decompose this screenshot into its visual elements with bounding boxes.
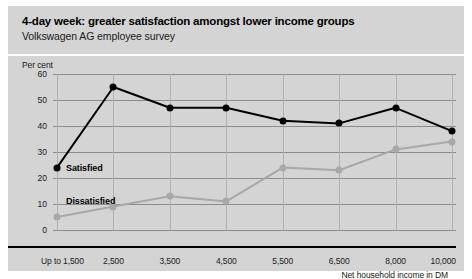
data-point-marker xyxy=(336,167,343,174)
plot-area: Per cent 6050403020100 Up to 1,5002,5003… xyxy=(8,56,464,271)
data-point-marker xyxy=(336,120,343,127)
y-tick-label: 20 xyxy=(38,173,47,183)
x-tick-label: 3,500 xyxy=(159,256,180,266)
data-point-marker xyxy=(449,138,456,145)
data-point-marker xyxy=(110,84,117,91)
y-tick-label: 40 xyxy=(38,121,47,131)
x-tick-label: 6,500 xyxy=(329,256,350,266)
title-block: 4-day week: greater satisfaction amongst… xyxy=(8,6,464,54)
x-tick-label: Up to 1,500 xyxy=(41,256,84,266)
data-point-marker xyxy=(279,164,286,171)
x-tick-label: 8,000 xyxy=(385,256,406,266)
data-point-marker xyxy=(392,146,399,153)
y-tick-label: 60 xyxy=(38,69,47,79)
y-tick-label: 10 xyxy=(38,199,47,209)
data-point-marker xyxy=(449,128,456,135)
data-point-marker xyxy=(166,104,173,111)
data-point-marker xyxy=(392,104,399,111)
data-point-marker xyxy=(166,193,173,200)
data-point-marker xyxy=(223,104,230,111)
chart-figure: 4-day week: greater satisfaction amongst… xyxy=(8,6,464,271)
x-tick-label: 10,000 xyxy=(431,256,456,266)
data-point-marker xyxy=(279,117,286,124)
x-tick-label: 2,500 xyxy=(103,256,124,266)
plot-canvas: 6050403020100 Up to 1,5002,5003,5004,500… xyxy=(53,74,456,230)
data-point-marker xyxy=(54,214,61,221)
page-subtitle: Volkswagen AG employee survey xyxy=(22,29,464,44)
x-axis-title: Net household income in DM xyxy=(341,270,448,279)
gridline-horizontal xyxy=(53,230,456,231)
page-title: 4-day week: greater satisfaction amongst… xyxy=(22,14,464,28)
y-tick-label: 0 xyxy=(42,225,47,235)
data-point-marker xyxy=(54,164,61,171)
series-label-satisfied: Satisfied xyxy=(66,163,103,173)
series-line xyxy=(57,87,452,168)
series-label-dissatisfied: Dissatisfied xyxy=(66,196,115,206)
x-axis-baseline xyxy=(8,246,456,248)
x-tick-label: 4,500 xyxy=(216,256,237,266)
x-tick-label: 5,500 xyxy=(272,256,293,266)
data-point-marker xyxy=(223,198,230,205)
y-tick-label: 30 xyxy=(38,147,47,157)
y-tick-label: 50 xyxy=(38,95,47,105)
